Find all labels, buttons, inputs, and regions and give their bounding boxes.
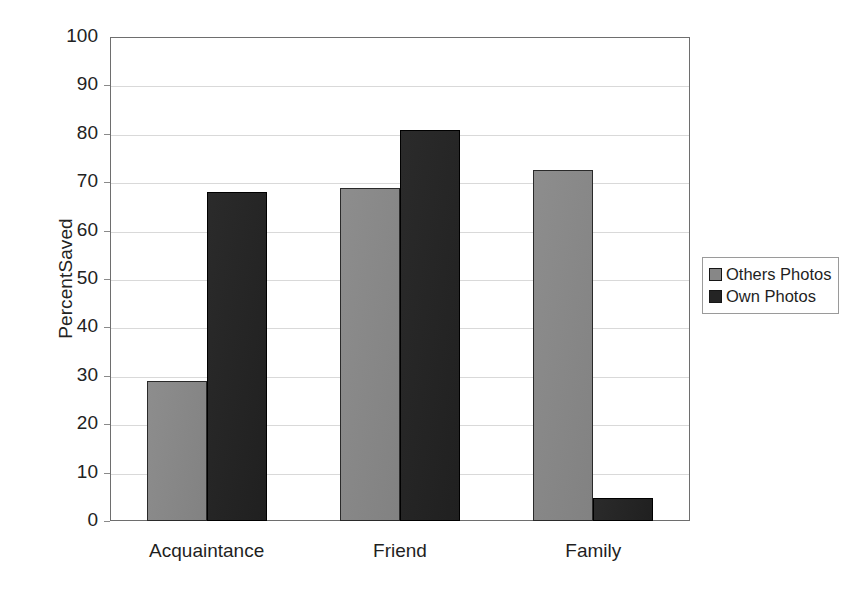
y-axis-tick-label: 20	[34, 412, 98, 434]
y-axis-tick-label: 10	[34, 461, 98, 483]
y-axis-tick-label: 90	[34, 73, 98, 95]
bar-others-photos-friend	[340, 188, 400, 521]
y-axis-tick-label: 0	[34, 509, 98, 531]
legend-item[interactable]: Others Photos	[709, 263, 831, 285]
legend-swatch-icon	[709, 290, 722, 303]
bar-own-photos-family	[593, 498, 653, 521]
y-axis-tick-mark	[104, 521, 110, 522]
legend-item-label: Own Photos	[726, 288, 816, 305]
bars-layer	[110, 37, 690, 521]
legend-item-label: Others Photos	[726, 266, 831, 283]
bar-own-photos-acquaintance	[207, 192, 267, 521]
x-axis-tick-label: Friend	[300, 540, 500, 562]
y-axis-tick-label: 100	[34, 25, 98, 47]
x-axis-tick-label: Family	[493, 540, 693, 562]
bar-chart-figure: PercentSaved 0102030405060708090100 Acqu…	[0, 0, 861, 592]
legend-item[interactable]: Own Photos	[709, 285, 831, 307]
y-axis-tick-label: 50	[34, 267, 98, 289]
legend: Others Photos Own Photos	[702, 257, 839, 314]
bar-others-photos-acquaintance	[147, 381, 207, 521]
bar-own-photos-friend	[400, 130, 460, 521]
legend-swatch-icon	[709, 268, 722, 281]
y-axis-tick-label: 80	[34, 122, 98, 144]
bar-others-photos-family	[533, 170, 593, 521]
y-axis-tick-label: 40	[34, 315, 98, 337]
x-axis-tick-label: Acquaintance	[107, 540, 307, 562]
y-axis-tick-label: 30	[34, 364, 98, 386]
y-axis-tick-label: 70	[34, 170, 98, 192]
y-axis-tick-label: 60	[34, 219, 98, 241]
